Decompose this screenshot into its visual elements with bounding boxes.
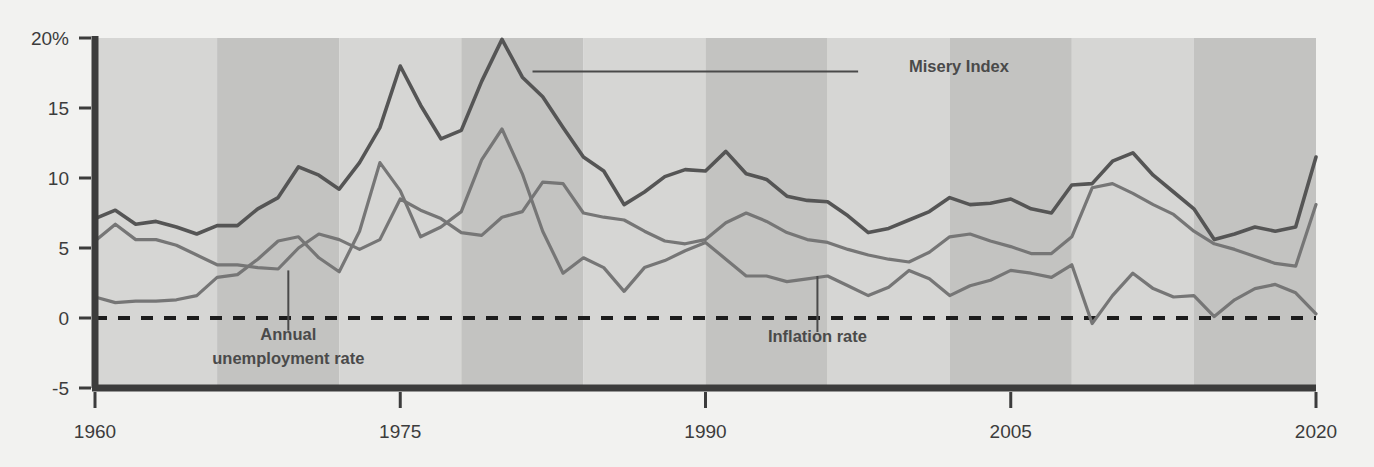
x-tick-label-0: 1960 [74,421,116,442]
x-tick-label-2: 1990 [684,421,726,442]
y-tick-label-0: 20% [31,28,69,49]
annotation-line-2: unemployment rate [212,349,364,367]
annotation-label-inflation-rate: Inflation rate [768,327,867,345]
annotation-line-1: Annual [260,325,316,343]
era-band-9 [1194,38,1316,388]
y-tick-label-4: 0 [58,308,69,329]
era-band-0 [95,38,217,388]
y-tick-label-5: -5 [52,378,69,399]
x-tick-label-3: 2005 [990,421,1032,442]
y-tick-label-1: 15 [48,98,69,119]
misery-index-line-chart: 20%151050-5 19601975199020052020 Misery … [0,0,1374,467]
era-band-8 [1072,38,1194,388]
x-tick-label-1: 1975 [379,421,421,442]
chart-container: 20%151050-5 19601975199020052020 Misery … [0,0,1374,467]
y-tick-label-2: 10 [48,168,69,189]
annotation-label-misery-index: Misery Index [909,57,1010,75]
era-band-4 [583,38,705,388]
era-band-2 [339,38,461,388]
y-tick-label-3: 5 [58,238,69,259]
x-tick-label-4: 2020 [1295,421,1337,442]
